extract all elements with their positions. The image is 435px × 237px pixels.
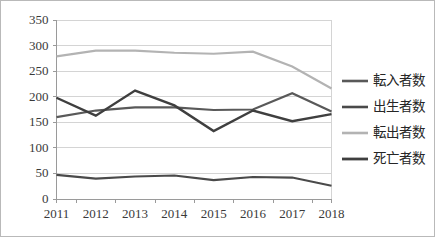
x-axis-labels: 20112012201320142015201620172018 [44, 206, 345, 221]
series-line-1 [57, 175, 332, 186]
y-axis-label: 50 [36, 165, 49, 180]
y-axis-label: 150 [29, 114, 49, 129]
y-axis-labels: 350300250200150100500 [29, 12, 49, 206]
chart-legend: 転入者数出生者数転出者数死亡者数 [342, 73, 426, 166]
x-axis-label: 2013 [122, 206, 148, 221]
line-chart: 350300250200150100500 201120122013201420… [1, 1, 435, 237]
x-axis-label: 2011 [44, 206, 70, 221]
chart-frame: 350300250200150100500 201120122013201420… [0, 0, 435, 237]
x-axis-label: 2014 [161, 206, 188, 221]
legend-label-1: 出生者数 [373, 99, 426, 114]
legend-label-3: 死亡者数 [373, 151, 426, 166]
y-axis-label: 300 [29, 38, 49, 53]
x-axis-label: 2015 [201, 206, 227, 221]
series-line-2 [57, 51, 332, 89]
x-axis-label: 2016 [240, 206, 267, 221]
y-axis-label: 200 [29, 89, 49, 104]
x-axis-label: 2018 [319, 206, 345, 221]
x-axis-label: 2017 [279, 206, 306, 221]
y-axis-label: 100 [29, 140, 49, 155]
legend-label-0: 転入者数 [373, 73, 426, 88]
y-axis-label: 0 [42, 191, 49, 206]
legend-label-2: 転出者数 [373, 125, 426, 140]
y-axis-label: 250 [29, 63, 49, 78]
y-axis-label: 350 [29, 12, 49, 27]
data-series [57, 51, 332, 186]
x-axis-label: 2012 [83, 206, 109, 221]
